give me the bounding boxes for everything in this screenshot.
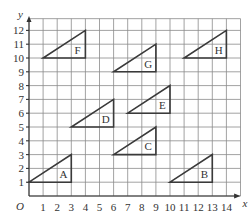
y-tick-label: 7 (19, 93, 25, 105)
x-tick-label: 12 (193, 201, 204, 213)
y-tick-label: 8 (19, 80, 25, 92)
x-tick-label: 1 (40, 201, 46, 213)
triangle-label: H (215, 44, 223, 56)
y-tick-label: 9 (19, 66, 25, 78)
x-tick-label: 11 (179, 201, 190, 213)
x-tick-label: 4 (83, 201, 89, 213)
x-tick-label: 10 (165, 201, 177, 213)
x-tick-label: 3 (69, 201, 75, 213)
x-tick-label: 6 (111, 201, 117, 213)
x-axis-arrow-icon (234, 194, 240, 199)
y-tick-label: 3 (19, 149, 25, 161)
origin-label: O (16, 200, 24, 212)
y-tick-label: 2 (19, 162, 25, 174)
y-tick-label: 12 (13, 24, 24, 36)
x-tick-label: 13 (207, 201, 219, 213)
y-tick-label: 11 (13, 38, 24, 50)
x-tick-label: 2 (54, 201, 60, 213)
y-axis-label: y (17, 8, 23, 20)
triangle-label: B (201, 168, 208, 180)
coordinate-grid-diagram: 1234567891011121314123456789101112Oxy AB… (0, 0, 252, 223)
triangle-label: F (75, 44, 81, 56)
triangle-label: G (144, 58, 152, 70)
triangle-label: E (159, 99, 166, 111)
y-tick-label: 10 (13, 52, 25, 64)
y-tick-label: 5 (19, 121, 25, 133)
x-tick-label: 7 (125, 201, 131, 213)
x-tick-label: 14 (221, 201, 233, 213)
y-tick-label: 1 (19, 176, 25, 188)
x-tick-label: 5 (97, 201, 103, 213)
x-tick-label: 9 (153, 201, 159, 213)
x-tick-label: 8 (139, 201, 145, 213)
triangle-label: D (102, 113, 110, 125)
y-tick-label: 6 (19, 107, 25, 119)
y-tick-label: 4 (19, 135, 25, 147)
triangle-label: A (60, 168, 68, 180)
x-axis-label: x (242, 197, 248, 209)
triangle-label: C (144, 140, 151, 152)
